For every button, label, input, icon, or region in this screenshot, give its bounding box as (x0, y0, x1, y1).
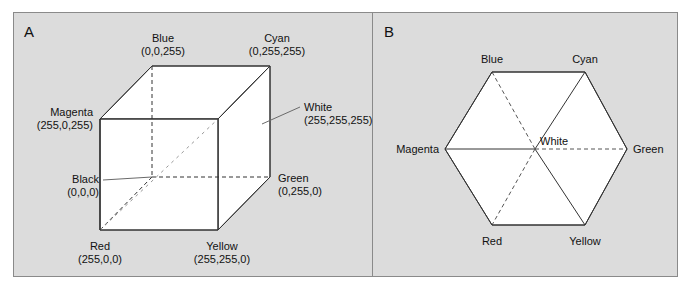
hex-label-white: White (540, 135, 568, 147)
cube-front-face (100, 119, 218, 230)
hex-label-green: Green (633, 143, 664, 155)
label-cyan-value: (0,255,255) (249, 45, 305, 57)
label-green-title: Green (278, 172, 309, 184)
label-blue-value: (0,0,255) (141, 45, 185, 57)
label-yellow-value: (255,255,0) (194, 253, 250, 265)
label-red-value: (255,0,0) (78, 253, 122, 265)
panel-b-letter: B (384, 23, 394, 40)
label-black-value: (0,0,0) (67, 186, 99, 198)
label-magenta-title: Magenta (50, 106, 94, 118)
label-red-title: Red (90, 240, 110, 252)
hex-label-yellow: Yellow (569, 235, 600, 247)
label-white-title: White (304, 101, 332, 113)
hex-label-magenta: Magenta (396, 143, 440, 155)
hex-label-red: Red (482, 235, 502, 247)
label-yellow-title: Yellow (206, 240, 237, 252)
label-green-value: (0,255,0) (278, 185, 322, 197)
label-black-title: Black (72, 173, 99, 185)
panel-a-letter: A (24, 23, 34, 40)
panel-b: B Blue Cyan Magenta White Green Red Yell… (384, 23, 664, 247)
hex-label-blue: Blue (481, 53, 503, 65)
figure-artwork: A Blue (0,0,255) (0, 0, 691, 294)
label-white-value: (255,255,255) (304, 114, 373, 126)
label-cyan-title: Cyan (264, 32, 290, 44)
panel-a: A Blue (0,0,255) (24, 23, 373, 265)
hex-label-cyan: Cyan (572, 53, 598, 65)
label-blue-title: Blue (152, 32, 174, 44)
label-magenta-value: (255,0,255) (37, 119, 93, 131)
figure-root: A Blue (0,0,255) (0, 0, 691, 294)
